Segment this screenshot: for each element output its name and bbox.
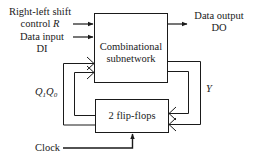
shift-control-text: control bbox=[21, 18, 53, 29]
shift-control-line1: Right-left shift bbox=[6, 6, 74, 18]
shift-control-var: R bbox=[53, 18, 59, 29]
flip-flops-label: 2 flip-flops bbox=[95, 110, 169, 122]
shift-control-line2: control R bbox=[6, 18, 74, 30]
combinational-line1: Combinational bbox=[94, 41, 168, 53]
feedback-y-inner-line bbox=[168, 72, 189, 114]
data-input-label: Data input DI bbox=[17, 31, 67, 55]
feedback-y-outer-line bbox=[168, 62, 201, 125]
combinational-subnetwork-label: Combinational subnetwork bbox=[94, 41, 168, 65]
data-output-label: Data output DO bbox=[190, 10, 248, 34]
data-input-line1: Data input bbox=[17, 31, 67, 43]
state-label: Q1Q0 bbox=[35, 86, 57, 101]
flip-flops-text: 2 flip-flops bbox=[109, 110, 156, 121]
feedback-q0-line bbox=[75, 73, 96, 116]
combinational-line2: subnetwork bbox=[94, 53, 168, 65]
q0-label: Q bbox=[46, 86, 54, 97]
data-output-line1: Data output bbox=[190, 10, 248, 22]
data-output-line2: DO bbox=[190, 22, 248, 34]
data-input-line2: DI bbox=[17, 43, 67, 55]
y-label: Y bbox=[206, 83, 212, 95]
clock-text: Clock bbox=[35, 142, 60, 153]
clock-line bbox=[63, 134, 133, 148]
q0-subscript: 0 bbox=[54, 91, 58, 99]
clock-label: Clock bbox=[35, 142, 60, 154]
y-text: Y bbox=[206, 83, 212, 94]
shift-control-label: Right-left shift control R bbox=[6, 6, 74, 30]
q1-label: Q bbox=[35, 86, 43, 97]
